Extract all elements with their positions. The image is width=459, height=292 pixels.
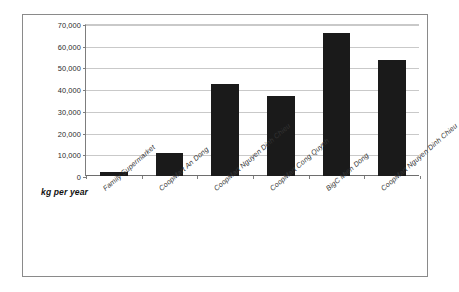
x-axis-title: kg per year [41, 187, 88, 197]
y-axis-tick-label: 20,000 [58, 129, 81, 138]
y-axis-tick-mark [83, 112, 86, 113]
y-axis-tick-label: 10,000 [58, 151, 81, 160]
gridline [86, 112, 419, 113]
x-axis-tick-mark [197, 176, 198, 179]
y-axis-tick-label: 0 [77, 173, 81, 182]
bar [211, 84, 239, 176]
y-axis-tick-label: 60,000 [58, 42, 81, 51]
y-axis-tick-mark [83, 68, 86, 69]
x-axis-tick-mark [420, 176, 421, 179]
y-axis-tick-label: 50,000 [58, 64, 81, 73]
x-axis-tick-mark [309, 176, 310, 179]
y-axis-tick-mark [83, 134, 86, 135]
y-axis-tick-label: 70,000 [58, 21, 81, 30]
bar [323, 33, 351, 176]
x-axis-tick-mark [142, 176, 143, 179]
x-axis-tick-mark [364, 176, 365, 179]
y-axis-tick-label: 40,000 [58, 86, 81, 95]
y-axis-tick-mark [83, 155, 86, 156]
x-axis-tick-mark [86, 176, 87, 179]
y-axis-tick-mark [83, 25, 86, 26]
bar [378, 60, 406, 176]
y-axis-tick-mark [83, 90, 86, 91]
y-axis-tick-mark [83, 47, 86, 48]
chart-frame: kg per year 010,00020,00030,00040,00050,… [22, 14, 428, 277]
gridline [86, 47, 419, 48]
x-axis-tick-mark [253, 176, 254, 179]
gridline [86, 134, 419, 135]
gridline [86, 68, 419, 69]
gridline [86, 90, 419, 91]
y-axis-tick-label: 30,000 [58, 107, 81, 116]
gridline [86, 25, 419, 26]
